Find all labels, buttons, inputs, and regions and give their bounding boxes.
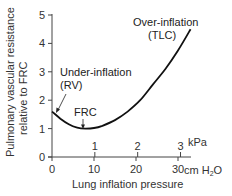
annotation-frc: FRC bbox=[74, 106, 97, 129]
y-tick-label: 0 bbox=[39, 151, 45, 163]
x-axis-title: Lung inflation pressure bbox=[72, 178, 183, 190]
unit-kpa-label: kPa bbox=[188, 136, 208, 148]
y-axis-ticks: 012345 bbox=[39, 9, 52, 163]
annotation-over-inflation: Over-inflation (TLC) bbox=[133, 16, 198, 41]
y-axis-title: Pulmonary vascular resistance relative t… bbox=[4, 7, 29, 157]
y-tick-label: 5 bbox=[39, 9, 45, 21]
y-tick-label: 2 bbox=[39, 94, 45, 106]
x-tick-label-cmh2o: 30 bbox=[172, 163, 184, 175]
svg-text:(RV): (RV) bbox=[60, 79, 82, 91]
x-tick-label-cmh2o: 10 bbox=[88, 163, 100, 175]
unit-cmh2o-label: cm H2O bbox=[184, 164, 223, 177]
y-tick-label: 3 bbox=[39, 66, 45, 78]
svg-text:Over-inflation: Over-inflation bbox=[133, 16, 198, 28]
y-tick-label: 4 bbox=[39, 37, 45, 49]
chart: Pulmonary vascular resistance relative t… bbox=[0, 0, 232, 196]
y-tick-label: 1 bbox=[39, 123, 45, 135]
svg-text:relative to FRC: relative to FRC bbox=[17, 62, 29, 135]
x-tick-label-kpa: 1 bbox=[92, 140, 98, 152]
x-tick-label-cmh2o: 20 bbox=[130, 163, 142, 175]
svg-text:FRC: FRC bbox=[74, 106, 97, 118]
svg-text:Pulmonary vascular resistance: Pulmonary vascular resistance bbox=[4, 7, 16, 157]
arrow-head-icon bbox=[56, 108, 60, 114]
x-tick-label-kpa: 3 bbox=[177, 140, 183, 152]
x-tick-label-cmh2o: 0 bbox=[49, 163, 55, 175]
svg-text:(TLC): (TLC) bbox=[148, 29, 176, 41]
svg-text:Under-inflation: Under-inflation bbox=[60, 66, 132, 78]
x-tick-label-kpa: 2 bbox=[135, 140, 141, 152]
